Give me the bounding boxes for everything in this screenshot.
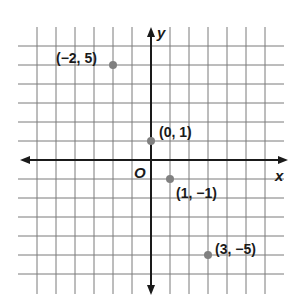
x-axis-label: x xyxy=(274,167,284,184)
point-3-neg5 xyxy=(204,251,212,259)
y-axis-up-arrow-icon xyxy=(147,27,155,37)
x-axis-left-arrow-icon xyxy=(20,156,30,164)
origin-label: O xyxy=(134,164,146,181)
point-1-neg1 xyxy=(166,175,174,183)
point-0-1 xyxy=(147,137,155,145)
x-axis-right-arrow-icon xyxy=(278,156,288,164)
point-neg2-5 xyxy=(109,61,117,69)
point-label-3-neg5: (3, −5) xyxy=(215,241,256,257)
point-label-0-1: (0, 1) xyxy=(159,124,192,140)
x-axis xyxy=(20,156,288,164)
y-axis-label: y xyxy=(156,24,166,41)
point-label-1-neg1: (1, −1) xyxy=(176,185,217,201)
point-label-neg2-5: (−2, 5) xyxy=(56,50,97,66)
y-axis-down-arrow-icon xyxy=(147,285,155,295)
coordinate-plane: y x O (−2, 5) (0, 1) (1, −1) (3, −5) xyxy=(0,0,306,299)
